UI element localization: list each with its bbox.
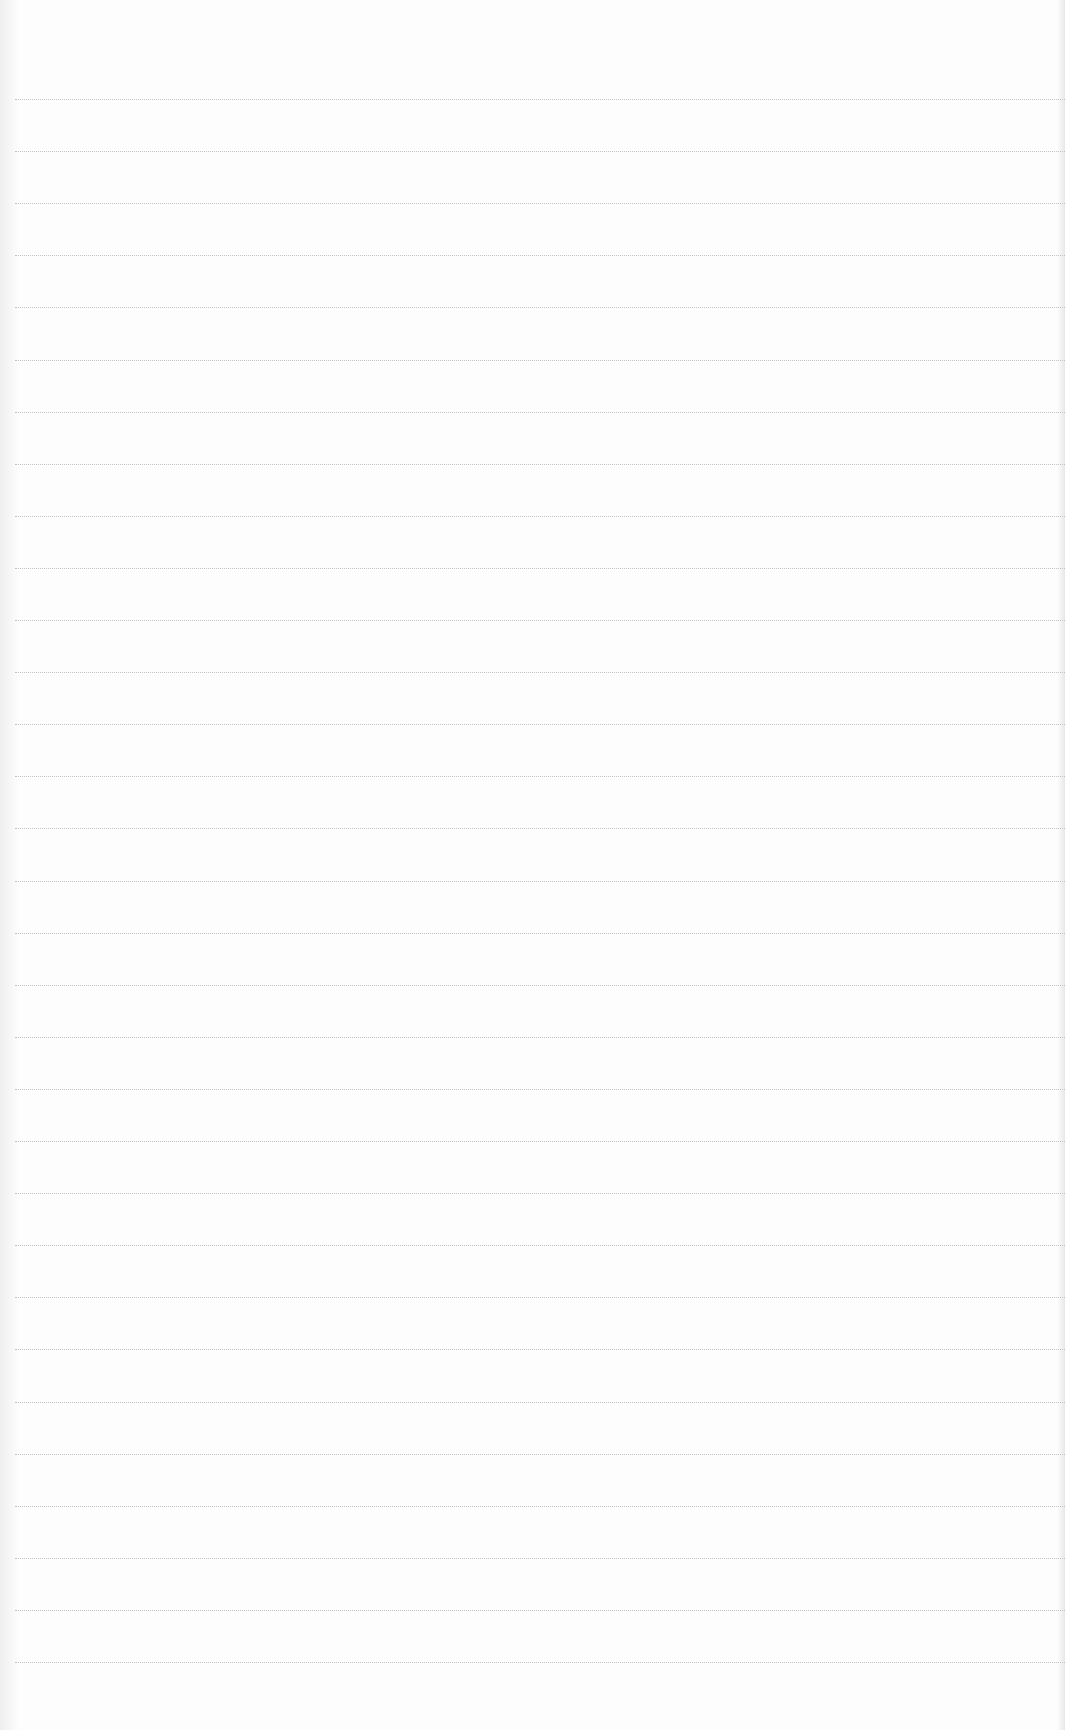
ruled-line (15, 255, 1065, 257)
ruled-line (15, 1402, 1065, 1404)
ruled-line (15, 568, 1065, 570)
page-edge-shadow-left (0, 0, 18, 1730)
ruled-line (15, 412, 1065, 414)
ruled-line (15, 307, 1065, 309)
ruled-line (15, 1454, 1065, 1456)
ruled-line (15, 724, 1065, 726)
ruled-line (15, 776, 1065, 778)
ruled-line (15, 1089, 1065, 1091)
ruled-line (15, 620, 1065, 622)
ruled-line (15, 985, 1065, 987)
ruled-line (15, 360, 1065, 362)
ruled-line (15, 1662, 1065, 1664)
ruled-line (15, 516, 1065, 518)
ruled-line (15, 1610, 1065, 1612)
ruled-line (15, 672, 1065, 674)
ruled-line (15, 1193, 1065, 1195)
ruled-line (15, 1245, 1065, 1247)
ruled-line (15, 828, 1065, 830)
ruled-line (15, 1349, 1065, 1351)
ruled-line (15, 1297, 1065, 1299)
ruled-line (15, 1506, 1065, 1508)
ruled-line (15, 99, 1065, 101)
ruled-line (15, 1037, 1065, 1039)
ruled-line (15, 151, 1065, 153)
ruled-line (15, 464, 1065, 466)
ruled-paper-sheet (0, 0, 1065, 1730)
ruled-line (15, 933, 1065, 935)
ruled-line (15, 881, 1065, 883)
ruled-line (15, 203, 1065, 205)
ruled-line (15, 1558, 1065, 1560)
ruled-line (15, 1141, 1065, 1143)
page-edge-shadow-right (1057, 0, 1065, 1730)
